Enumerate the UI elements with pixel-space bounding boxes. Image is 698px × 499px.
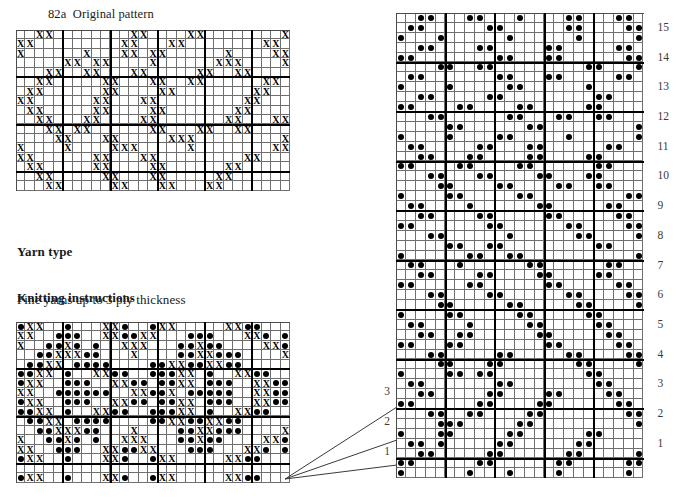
chart-cell [252,106,261,115]
chart-cell [73,58,82,67]
chart-cell [139,181,148,190]
chart-cell [92,30,101,39]
chart-cell [604,459,614,469]
chart-cell [205,134,214,143]
chart-cell [564,350,574,360]
chart-cell [535,23,545,33]
chart-cell [426,409,436,419]
chart-cell [525,152,535,162]
chart-cell [186,331,195,340]
chart-cell [525,429,535,439]
chart-cell [167,134,176,143]
chart-cell [574,13,584,23]
chart-cell [92,407,101,416]
chart-cell [196,143,205,152]
chart-cell [416,290,426,300]
chart-cell [92,143,101,152]
chart-cell [545,350,555,360]
chart-cell [406,330,416,340]
chart-cell [111,454,120,463]
chart-cell [416,300,426,310]
chart-cell [594,290,604,300]
chart-cell [148,125,157,134]
chart-cell [554,33,564,43]
chart-cell [167,172,176,181]
chart-cell [101,49,110,58]
chart-cell [584,429,594,439]
chart-cell [205,454,214,463]
chart-cell [243,398,252,407]
chart-cell [545,310,555,320]
chart-cell [224,426,233,435]
chart-cell [233,435,242,444]
chart-cell [436,439,446,449]
chart-cell [416,82,426,92]
chart-cell [475,290,485,300]
chart-cell [158,417,167,426]
chart-cell [495,112,505,122]
chart-cell [416,261,426,271]
chart-cell [63,153,72,162]
chart-cell [446,261,456,271]
chart-cell [271,464,280,473]
chart-cell [186,388,195,397]
chart-cell [224,77,233,86]
chart-cell [158,115,167,124]
chart-cell [35,181,44,190]
chart-cell [16,379,25,388]
chart-cell [475,33,485,43]
chart-cell [584,290,594,300]
chart-cell [574,122,584,132]
chart-cell [205,106,214,115]
chart-cell [111,473,120,482]
chart-cell [224,172,233,181]
chart-cell [505,63,515,73]
chart-cell [614,63,624,73]
chart-cell [554,132,564,142]
chart-cell [129,58,138,67]
chart-cell [505,261,515,271]
chart-cell [196,96,205,105]
chart-cell [214,407,223,416]
chart-cell [475,112,485,122]
chart-cell [262,68,271,77]
chart-cell [54,445,63,454]
chart-cell [525,419,535,429]
chart-cell [35,77,44,86]
chart-cell [604,330,614,340]
chart-cell [495,449,505,459]
chart-cell [584,33,594,43]
chart-cell [243,77,252,86]
chart-cell [535,459,545,469]
chart-cell [515,211,525,221]
chart-cell [584,23,594,33]
chart-cell [446,379,456,389]
chart-cell [455,261,465,271]
chart-cell [535,409,545,419]
chart-cell [426,23,436,33]
chart-cell [426,468,436,478]
chart-cell [158,331,167,340]
chart-cell [271,331,280,340]
chart-cell [252,96,261,105]
chart-cell [426,53,436,63]
chart-cell [111,39,120,48]
chart-cell [25,96,34,105]
chart-cell [177,445,186,454]
chart-cell [233,39,242,48]
chart-cell [243,172,252,181]
chart-cell [604,162,614,172]
chart-cell [25,435,34,444]
chart-cell [475,201,485,211]
chart-cell [446,419,456,429]
chart-cell [25,68,34,77]
chart-cell [426,72,436,82]
chart-cell [614,211,624,221]
chart-cell [475,162,485,172]
chart-cell [604,92,614,102]
chart-cell [148,134,157,143]
chart-cell [554,399,564,409]
chart-cell [120,388,129,397]
chart-cell [564,13,574,23]
chart-cell [515,280,525,290]
